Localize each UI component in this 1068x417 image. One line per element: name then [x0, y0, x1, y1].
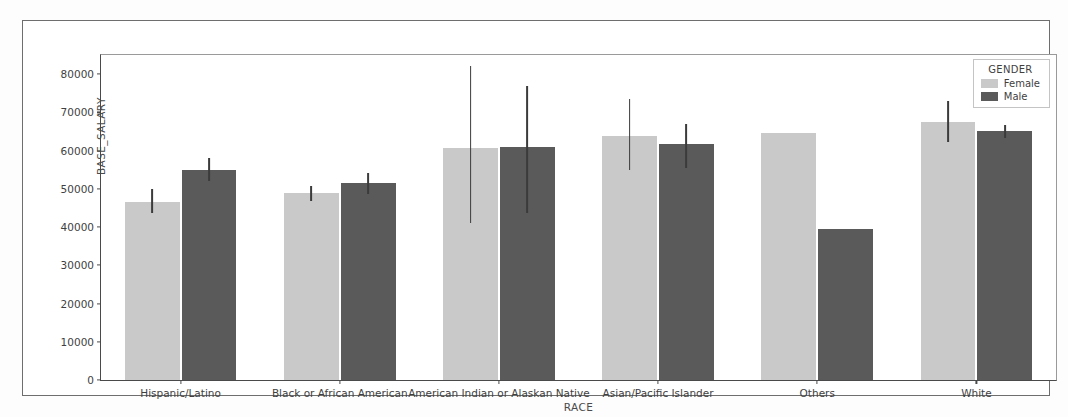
x-tick-label: White — [961, 387, 992, 399]
error-bar — [947, 101, 949, 142]
y-tick-mark — [97, 226, 101, 227]
x-tick-label: Others — [800, 387, 835, 399]
y-tick-label: 30000 — [61, 259, 101, 271]
bar — [284, 193, 339, 380]
bar — [761, 133, 816, 380]
legend-item[interactable]: Female — [981, 78, 1040, 89]
chart-page: BASE_SALARY RACE 01000020000300004000050… — [0, 0, 1068, 417]
bar — [977, 131, 1032, 380]
y-tick-label: 10000 — [61, 336, 101, 348]
y-tick-mark — [97, 341, 101, 342]
legend-label: Female — [1004, 78, 1040, 89]
error-bar — [367, 173, 369, 194]
bar — [182, 170, 237, 380]
error-bar — [470, 66, 472, 223]
bar — [659, 144, 714, 380]
bar — [602, 136, 657, 380]
x-tick-mark — [976, 380, 977, 384]
legend-item[interactable]: Male — [981, 91, 1040, 102]
y-tick-label: 40000 — [61, 221, 101, 233]
bar — [125, 202, 180, 380]
error-bar — [151, 189, 153, 213]
y-tick-label: 20000 — [61, 298, 101, 310]
x-tick-label: Asian/Pacific Islander — [603, 387, 714, 399]
x-tick-mark — [657, 380, 658, 384]
x-tick-mark — [498, 380, 499, 384]
x-tick-mark — [180, 380, 181, 384]
y-tick-mark — [97, 379, 101, 380]
plot-axes: BASE_SALARY RACE 01000020000300004000050… — [100, 54, 1057, 381]
y-tick-mark — [97, 303, 101, 304]
error-bar — [629, 99, 631, 170]
y-tick-mark — [97, 265, 101, 266]
y-tick-mark — [97, 188, 101, 189]
error-bar — [310, 186, 312, 201]
figure-frame: BASE_SALARY RACE 01000020000300004000050… — [22, 20, 1050, 396]
legend-label: Male — [1004, 91, 1028, 102]
y-tick-label: 50000 — [61, 183, 101, 195]
x-tick-mark — [339, 380, 340, 384]
x-axis-label: RACE — [564, 401, 593, 413]
x-tick-label: Black or African American — [272, 387, 408, 399]
y-tick-mark — [97, 74, 101, 75]
error-bar — [526, 86, 528, 214]
bar — [341, 183, 396, 380]
error-bar — [686, 124, 688, 168]
error-bar — [208, 158, 210, 181]
error-bar — [1004, 125, 1006, 138]
x-tick-label: American Indian or Alaskan Native — [408, 387, 589, 399]
y-tick-mark — [97, 150, 101, 151]
legend-title: GENDER — [981, 64, 1040, 75]
y-tick-label: 70000 — [61, 106, 101, 118]
x-tick-mark — [817, 380, 818, 384]
bar — [818, 229, 873, 380]
legend-swatch — [981, 79, 998, 88]
x-tick-label: Hispanic/Latino — [140, 387, 221, 399]
legend-swatch — [981, 92, 998, 101]
bar — [921, 122, 976, 380]
legend-entries: FemaleMale — [981, 78, 1040, 102]
legend: GENDER FemaleMale — [973, 59, 1050, 108]
y-tick-mark — [97, 112, 101, 113]
y-tick-label: 80000 — [61, 68, 101, 80]
y-tick-label: 60000 — [61, 145, 101, 157]
